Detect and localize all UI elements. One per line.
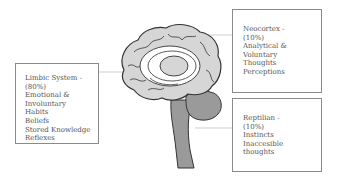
limbic-item: Emotional & <box>25 91 90 100</box>
limbic-title: Limbic System - <box>25 74 90 83</box>
neocortex-title: Neocortex - <box>243 25 287 34</box>
neocortex-percent: (10%) <box>243 34 287 43</box>
reptilian-item: Instincts <box>243 131 283 140</box>
limbic-percent: (80%) <box>25 83 90 92</box>
reptilian-title: Reptilian - <box>243 114 283 123</box>
neocortex-item: Analytical & <box>243 42 287 51</box>
limbic-system-text: Limbic System - (80%) Emotional & Involu… <box>25 74 90 143</box>
neocortex-box: Neocortex - (10%) Analytical & Voluntary… <box>232 9 322 93</box>
thalamus-icon <box>160 56 188 76</box>
limbic-item: Beliefs <box>25 117 90 126</box>
reptilian-box: Reptilian - (10%) Instincts Inaccesible … <box>232 98 322 172</box>
reptilian-text: Reptilian - (10%) Instincts Inaccesible … <box>243 114 283 157</box>
limbic-system-box: Limbic System - (80%) Emotional & Involu… <box>15 63 99 144</box>
limbic-item: Habits <box>25 108 90 117</box>
neocortex-text: Neocortex - (10%) Analytical & Voluntary… <box>243 25 287 77</box>
limbic-item: Stored Knowledge <box>25 126 90 135</box>
neocortex-item: Voluntary <box>243 51 287 60</box>
reptilian-percent: (10%) <box>243 123 283 132</box>
neocortex-item: Perceptions <box>243 68 287 77</box>
limbic-item: Involuntary <box>25 100 90 109</box>
limbic-item: Reflexes <box>25 134 90 143</box>
neocortex-item: Thoughts <box>243 59 287 68</box>
reptilian-item: Inaccesible <box>243 140 283 149</box>
reptilian-item: thoughts <box>243 148 283 157</box>
